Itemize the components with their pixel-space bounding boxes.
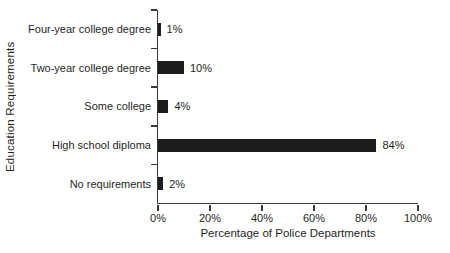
bar — [158, 23, 161, 36]
x-tick-label: 0% — [150, 212, 166, 224]
bar — [158, 61, 184, 74]
plot-area: Four-year college degree1%Two-year colle… — [157, 10, 418, 204]
value-label: 4% — [174, 100, 190, 112]
category-label: Two-year college degree — [31, 62, 151, 74]
x-axis-tick — [417, 205, 419, 211]
bar-rows: Four-year college degree1%Two-year colle… — [158, 10, 418, 203]
x-axis-tick — [313, 205, 315, 211]
x-axis-title: Percentage of Police Departments — [200, 227, 375, 239]
category-label: High school diploma — [52, 139, 151, 151]
x-axis-tick — [365, 205, 367, 211]
x-tick-label: 100% — [404, 212, 432, 224]
y-axis-tick — [151, 86, 157, 88]
bar — [158, 139, 376, 152]
category-label: Four-year college degree — [28, 23, 151, 35]
y-axis-tick — [151, 164, 157, 166]
value-label: 84% — [382, 139, 404, 151]
bar-row: Four-year college degree1% — [158, 10, 418, 49]
bar-row: High school diploma84% — [158, 126, 418, 165]
bar — [158, 100, 168, 113]
y-axis-title: Education Requirements — [4, 10, 16, 204]
bar-row: No requirements2% — [158, 164, 418, 203]
y-axis-tick — [151, 9, 157, 11]
x-tick-label: 80% — [355, 212, 377, 224]
y-axis-tick — [151, 125, 157, 127]
y-axis-tick — [151, 48, 157, 50]
value-label: 2% — [169, 178, 185, 190]
bar-chart: Education Requirements Four-year college… — [0, 0, 450, 253]
bar-row: Two-year college degree10% — [158, 49, 418, 88]
x-tick-label: 40% — [251, 212, 273, 224]
value-label: 1% — [167, 23, 183, 35]
x-axis-tick — [157, 205, 159, 211]
x-axis-tick — [209, 205, 211, 211]
bar — [158, 177, 163, 190]
value-label: 10% — [190, 62, 212, 74]
x-tick-label: 60% — [303, 212, 325, 224]
bar-row: Some college4% — [158, 87, 418, 126]
category-label: No requirements — [70, 178, 151, 190]
x-axis-tick — [261, 205, 263, 211]
x-tick-label: 20% — [199, 212, 221, 224]
category-label: Some college — [84, 100, 151, 112]
